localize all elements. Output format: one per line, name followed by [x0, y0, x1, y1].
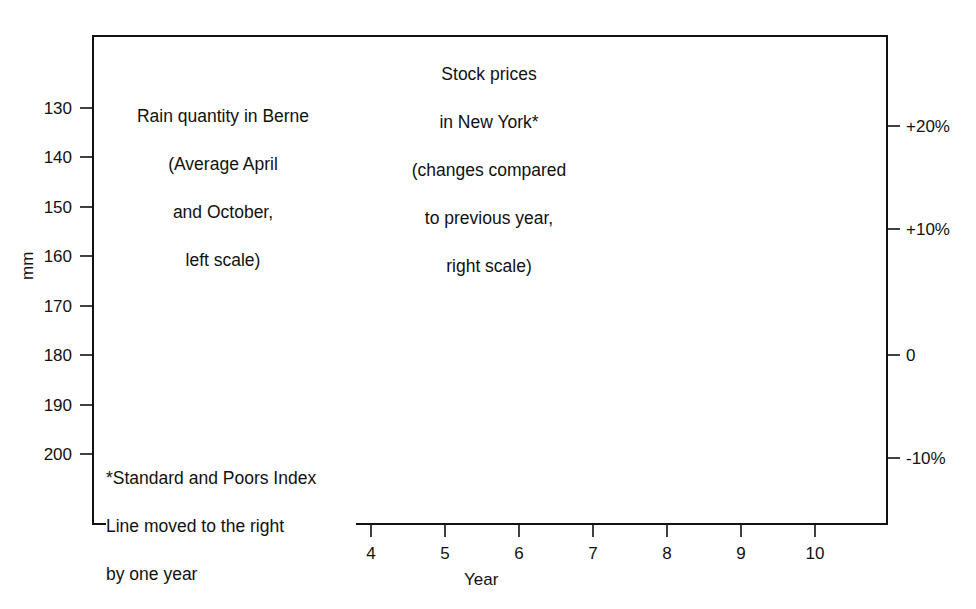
left-tick-150: 150: [14, 199, 72, 216]
x-tick-5: 5: [440, 545, 449, 562]
left-tick-170: 170: [14, 298, 72, 315]
x-tick-7: 7: [588, 545, 597, 562]
right-axis-ticks: [888, 126, 900, 458]
stock-annotation-line-5: right scale): [378, 254, 600, 278]
x-tick-9: 9: [736, 545, 745, 562]
stock-annotation-line-3: (changes compared: [378, 158, 600, 182]
left-tick-200: 200: [14, 446, 72, 463]
left-tick-180: 180: [14, 347, 72, 364]
rain-annotation-line-3: and October,: [94, 200, 352, 224]
stock-annotation: Stock prices in New York* (changes compa…: [378, 38, 600, 302]
rain-annotation: Rain quantity in Berne (Average April an…: [94, 80, 352, 296]
left-axis-ticks: [80, 108, 92, 454]
rain-annotation-line-1: Rain quantity in Berne: [94, 104, 352, 128]
rain-annotation-line-2: (Average April: [94, 152, 352, 176]
stock-annotation-line-4: to previous year,: [378, 206, 600, 230]
footnote-annotation-line-2: Line moved to the right: [106, 514, 356, 538]
stock-annotation-line-1: Stock prices: [378, 62, 600, 86]
right-tick-plus10: +10%: [906, 221, 950, 238]
x-tick-6: 6: [514, 545, 523, 562]
chart-figure: 130 140 150 160 170 180 190 200 mm +20% …: [0, 0, 976, 609]
right-tick-plus20: +20%: [906, 118, 950, 135]
left-axis-title: mm: [18, 252, 38, 280]
rain-annotation-line-4: left scale): [94, 248, 352, 272]
right-tick-zero: 0: [906, 347, 915, 364]
footnote-annotation-line-3: by one year: [106, 562, 356, 586]
x-tick-8: 8: [662, 545, 671, 562]
right-tick-minus10: -10%: [906, 450, 946, 467]
left-tick-140: 140: [14, 149, 72, 166]
stock-annotation-line-2: in New York*: [378, 110, 600, 134]
left-tick-130: 130: [14, 100, 72, 117]
x-tick-4: 4: [366, 545, 375, 562]
x-tick-10: 10: [806, 545, 825, 562]
footnote-annotation: *Standard and Poors Index Line moved to …: [106, 442, 356, 609]
footnote-annotation-line-1: *Standard and Poors Index: [106, 466, 356, 490]
left-tick-190: 190: [14, 397, 72, 414]
x-axis-title: Year: [464, 570, 498, 590]
